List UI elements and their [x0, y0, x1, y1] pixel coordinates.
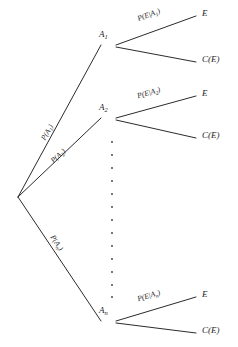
diagram-canvas: A1 A2 An E C(E) E C(E) E C(E) P(E|A1) P(…	[0, 0, 238, 347]
edge-a1-to-complement	[116, 47, 196, 62]
vertical-ellipsis	[111, 141, 113, 298]
terminal-label-e1: E	[202, 9, 208, 18]
terminal-label-e2: E	[202, 89, 208, 98]
node-label-an: An	[99, 306, 108, 315]
node-label-a1: A1	[99, 30, 108, 39]
edge-a1-to-event	[116, 16, 196, 45]
edge-an-to-event	[116, 297, 196, 321]
terminal-label-ce2: C(E)	[202, 131, 220, 140]
edge-a2-to-complement	[116, 120, 196, 138]
terminal-label-cen: C(E)	[202, 326, 220, 335]
terminal-label-ce1: C(E)	[202, 55, 220, 64]
edge-root-to-an	[18, 197, 101, 321]
edge-a2-to-event	[116, 96, 196, 118]
edge-an-to-complement	[116, 323, 196, 333]
edge-root-to-a1	[18, 45, 101, 197]
terminal-label-en: E	[202, 290, 208, 299]
node-label-a2: A2	[99, 103, 108, 112]
